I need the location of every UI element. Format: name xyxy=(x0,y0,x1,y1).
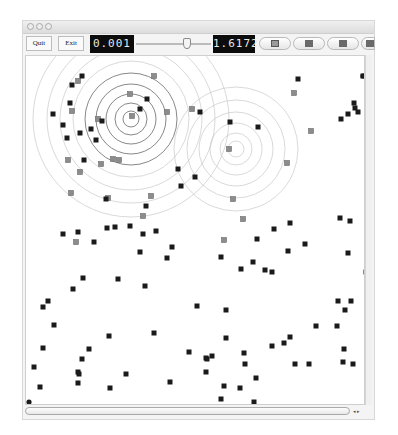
quit-button[interactable]: Quit xyxy=(26,36,52,51)
particle xyxy=(78,170,83,175)
particle xyxy=(343,308,348,313)
particle xyxy=(124,372,129,377)
particle xyxy=(303,242,308,247)
particle xyxy=(224,308,229,313)
left-value-display: 0.001 xyxy=(90,35,134,53)
particle xyxy=(349,299,354,304)
particle xyxy=(113,225,118,230)
particle xyxy=(76,79,81,84)
square-icon xyxy=(305,40,313,47)
particle xyxy=(76,381,81,386)
particle xyxy=(254,376,259,381)
right-value-display: 1.6172 xyxy=(213,35,255,53)
particle xyxy=(32,365,37,370)
ripple-ring xyxy=(73,61,189,177)
particle xyxy=(82,158,87,163)
particle xyxy=(41,305,46,310)
pill-button-4[interactable] xyxy=(361,37,375,50)
particle xyxy=(152,74,157,79)
particle xyxy=(195,304,200,309)
particle xyxy=(348,219,353,224)
particle xyxy=(87,347,92,352)
particle xyxy=(165,256,170,261)
particle xyxy=(46,299,51,304)
simulation-canvas[interactable] xyxy=(25,55,365,405)
value-slider-thumb[interactable] xyxy=(183,38,191,49)
exit-button[interactable]: Exit xyxy=(58,36,84,51)
particle xyxy=(356,110,361,115)
particle xyxy=(243,362,248,367)
particle xyxy=(314,324,319,329)
particle xyxy=(100,119,105,124)
particle xyxy=(263,268,268,273)
particle xyxy=(239,267,244,272)
particle xyxy=(74,240,79,245)
particle xyxy=(80,74,85,79)
particle xyxy=(190,107,195,112)
particle xyxy=(256,125,261,130)
minimize-window-button[interactable] xyxy=(36,23,43,30)
particle xyxy=(252,400,257,405)
horizontal-scrollbar[interactable] xyxy=(25,407,350,415)
particle xyxy=(341,360,346,365)
particle xyxy=(241,217,246,222)
vertical-scrollbar[interactable] xyxy=(365,55,372,405)
particle xyxy=(77,372,82,377)
particle xyxy=(255,237,260,242)
particle xyxy=(108,386,113,391)
particle xyxy=(205,357,210,362)
particle xyxy=(89,127,94,132)
particle xyxy=(292,91,297,96)
square-icon xyxy=(366,40,374,47)
particle xyxy=(107,334,112,339)
outlined-square-icon xyxy=(271,40,279,47)
particle xyxy=(193,175,198,180)
particle xyxy=(66,158,71,163)
particle xyxy=(224,336,229,341)
particle xyxy=(165,110,170,115)
pill-button-2[interactable] xyxy=(293,37,325,50)
particle xyxy=(70,109,75,114)
particle xyxy=(51,112,56,117)
particle xyxy=(293,362,298,367)
particle xyxy=(309,129,314,134)
particle xyxy=(231,197,236,202)
particle xyxy=(342,347,347,352)
particle xyxy=(38,385,43,390)
particle xyxy=(288,335,293,340)
particle xyxy=(65,136,70,141)
particle xyxy=(149,194,154,199)
particle xyxy=(94,138,99,143)
particle xyxy=(111,157,116,162)
particle xyxy=(296,77,301,82)
particle xyxy=(141,232,146,237)
particle xyxy=(228,120,233,125)
particle xyxy=(70,83,75,88)
particle xyxy=(219,255,224,260)
particle xyxy=(61,232,66,237)
particle xyxy=(81,276,86,281)
particle xyxy=(227,147,232,152)
particle xyxy=(52,323,57,328)
particle xyxy=(219,397,224,402)
particle xyxy=(270,344,275,349)
particle xyxy=(288,221,293,226)
particle xyxy=(141,214,146,219)
pill-button-3[interactable] xyxy=(327,37,359,50)
pill-button-1[interactable] xyxy=(259,37,291,50)
particle xyxy=(145,97,150,102)
zoom-window-button[interactable] xyxy=(45,23,52,30)
particle xyxy=(222,238,227,243)
value-slider-track[interactable] xyxy=(136,43,211,45)
close-window-button[interactable] xyxy=(27,23,34,30)
particle xyxy=(282,341,287,346)
particle xyxy=(210,354,215,359)
particle xyxy=(117,158,122,163)
particle xyxy=(76,230,81,235)
particle xyxy=(222,384,227,389)
title-bar[interactable] xyxy=(23,21,374,34)
particle xyxy=(346,251,351,256)
scroll-arrows-icon[interactable]: ◂ ▸ xyxy=(353,408,360,414)
particle xyxy=(270,270,275,275)
particle xyxy=(286,249,291,254)
